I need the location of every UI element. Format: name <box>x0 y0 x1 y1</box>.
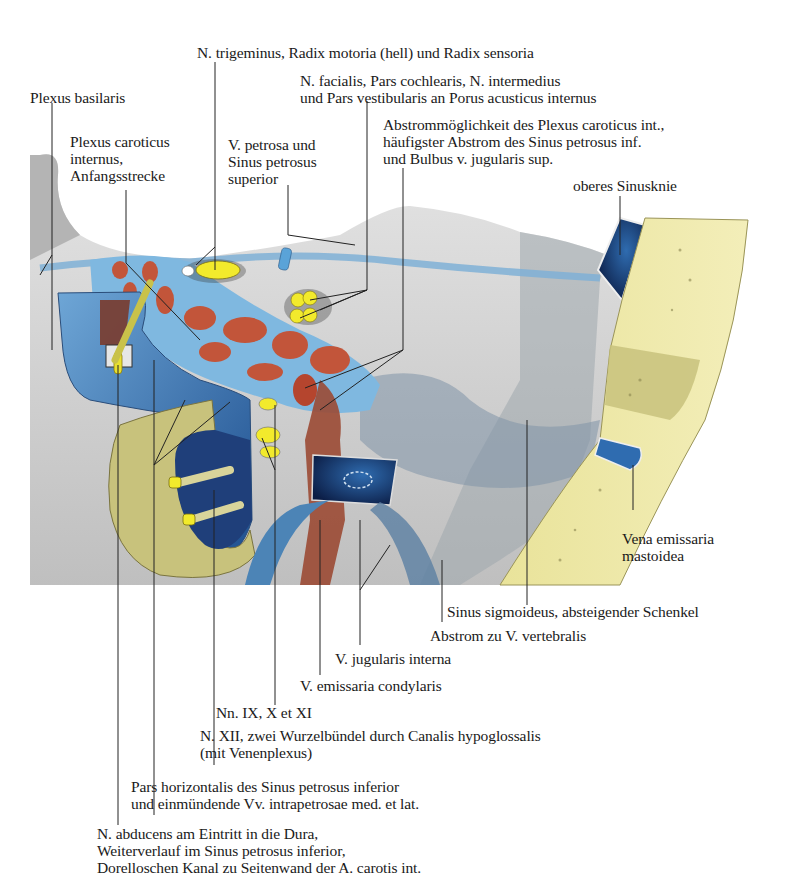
label-plexus-caroticus: Plexus caroticus internus, Anfangsstreck… <box>70 133 170 184</box>
facial-vestibulocochlear-nerve-stump <box>284 289 332 325</box>
label-facialis: N. facialis, Pars cochlearis, N. interme… <box>300 72 596 106</box>
label-v-emissaria-condylaris: V. emissaria condylaris <box>300 677 442 694</box>
label-trigeminus: N. trigeminus, Radix motoria (hell) und … <box>197 44 534 61</box>
label-abstrommoeglichkeit: Abstrommöglichkeit des Plexus caroticus … <box>383 116 664 167</box>
label-vena-emissaria-mastoidea: Vena emissaria mastoidea <box>622 530 714 564</box>
label-v-jugularis-interna: V. jugularis interna <box>335 650 451 667</box>
label-pars-horizontalis: Pars horizontalis des Sinus petrosus inf… <box>131 778 419 812</box>
label-n-xii: N. XII, zwei Wurzelbündel durch Canalis … <box>200 727 541 761</box>
label-oberes-sinusknie: oberes Sinusknie <box>573 177 677 194</box>
label-v-petrosa: V. petrosa und Sinus petrosus superior <box>228 136 317 187</box>
label-plexus-basilaris: Plexus basilaris <box>30 89 125 106</box>
label-n-abducens: N. abducens am Eintritt in die Dura, Wei… <box>97 825 421 876</box>
label-nn-ix-x-xi: Nn. IX, X et XI <box>216 704 312 721</box>
label-sinus-sigmoideus: Sinus sigmoideus, absteigender Schenkel <box>447 603 699 620</box>
label-abstrom-vertebralis: Abstrom zu V. vertebralis <box>430 627 586 644</box>
